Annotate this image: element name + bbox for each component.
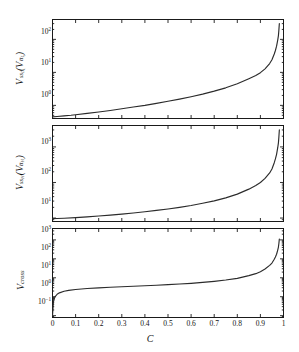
panel3-frame (53, 229, 284, 318)
x-tick-label: 0.1 (64, 320, 88, 328)
panel1-ytick-1: 101 (31, 59, 51, 67)
panel3-plot (52, 228, 284, 318)
x-tick-label: 1 (272, 320, 296, 328)
panel2-ytick-3: 103 (31, 138, 51, 146)
panel1-frame (53, 20, 284, 119)
panel3-svg (52, 228, 284, 318)
panel1-ticks (53, 20, 284, 119)
x-tick-label: 0.3 (110, 320, 134, 328)
panel1-curve (53, 24, 280, 117)
x-tick-label: 0.7 (202, 320, 226, 328)
panel2-frame (53, 126, 284, 222)
panel2-plot (52, 125, 284, 222)
x-tick-label: 0.8 (225, 320, 249, 328)
panel2-y-axis-label: VssH(VttH) (14, 131, 28, 215)
panel1-svg (52, 19, 284, 119)
x-tick-label: 0.6 (179, 320, 203, 328)
panel1-ytick-0: 100 (31, 91, 51, 99)
x-tick-label: 0.5 (156, 320, 180, 328)
panel2-svg (52, 125, 284, 222)
panel2-ytick-2: 102 (31, 168, 51, 176)
x-tick-label: 0.4 (133, 320, 157, 328)
x-tick-label: 0.9 (248, 320, 272, 328)
panel3-ytick-2: 102 (31, 244, 51, 252)
panel1-ytick-2: 102 (31, 28, 51, 36)
panel3-ytick-0: 100 (31, 280, 51, 288)
panel3-ticks (53, 229, 284, 318)
x-tick-label: 0 (41, 320, 65, 328)
x-tick-label: 0.2 (87, 320, 111, 328)
panel3-curve (53, 239, 280, 316)
panel2-curve (53, 130, 280, 219)
panel3-y-axis-label: Vcross (15, 252, 29, 308)
panel2-ytick-1: 101 (31, 198, 51, 206)
panel3-ytick-3: 103 (31, 226, 51, 234)
figure-root: VssL(VttL) 102 101 100 VssH(VttH) 103 10… (0, 0, 299, 352)
panel1-y-axis-label: VssL(VttL) (14, 26, 28, 110)
panel2-ticks (53, 126, 284, 222)
panel3-ytick-m1: 10−1 (28, 298, 51, 306)
x-axis-label: C (140, 333, 160, 344)
panel3-ytick-1: 101 (31, 262, 51, 270)
panel1-plot (52, 19, 284, 119)
